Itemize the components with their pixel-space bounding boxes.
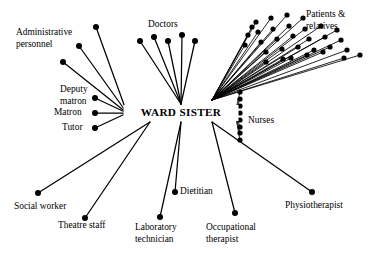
label-social-worker: Social worker [14,201,67,211]
label-nurses: Nurses [248,115,274,125]
node-dot-nurses-2 [237,96,242,101]
node-dot-patients-and-relatives-31 [249,24,254,29]
spoke-doctors-2 [154,37,181,104]
node-dot-nurses-6 [237,124,242,129]
label-physiotherapist: Physiotherapist [285,200,343,210]
label-occupational-therapist: Occupationaltherapist [206,222,256,244]
node-dot-social-worker-1 [35,190,41,196]
label-dietitian: Dietitian [180,186,213,196]
spoke-laboratory-technician-1 [160,122,181,217]
label-line: Laboratory [135,222,177,232]
diagram-canvas: AdministrativepersonnelDoctorsPatients &… [0,0,384,254]
label-line: Administrative [16,27,72,37]
node-dot-patients-and-relatives-15 [322,34,327,39]
node-dot-doctors-5 [192,38,198,44]
spoke-patients-and-relatives-27 [212,55,360,100]
node-dot-patients-and-relatives-14 [306,36,311,41]
dot-group-doctors [137,32,198,44]
label-line: Matron [54,107,82,117]
node-dot-matron-1 [92,110,98,116]
hub-label: WARD SISTER [141,106,222,118]
label-laboratory-technician: Laboratorytechnician [135,222,177,244]
dot-group-laboratory-technician [157,214,163,220]
label-line: Doctors [148,19,178,29]
spoke-group-doctors [140,35,195,104]
label-line: Nurses [248,115,274,125]
dot-group-dietitian [172,189,178,195]
spoke-group-dietitian [175,122,181,192]
dot-group-tutor [92,125,98,131]
spoke-patients-and-relatives-19 [212,47,298,100]
node-dot-patients-and-relatives-19 [295,44,300,49]
spoke-dietitian-1 [175,122,181,192]
node-dot-patients-and-relatives-22 [344,47,349,52]
node-dot-patients-and-relatives-6 [270,26,275,31]
label-administrative-personnel: Administrativepersonnel [16,27,72,49]
node-dot-doctors-3 [165,38,171,44]
node-dot-patients-and-relatives-11 [258,39,263,44]
node-dot-doctors-2 [151,34,157,40]
label-line: Theatre staff [58,220,106,230]
spoke-patients-and-relatives-24 [212,55,307,100]
node-dot-patients-and-relatives-32 [242,42,247,47]
node-dot-deputy-matron-1 [92,95,98,101]
node-dot-physiotherapist-1 [309,189,315,195]
label-tutor: Tutor [62,122,83,132]
node-dot-patients-and-relatives-16 [338,37,343,42]
dot-group-occupational-therapist [232,210,238,216]
label-line: matron [60,96,87,106]
label-line: Tutor [62,122,83,132]
node-dot-nurses-8 [237,137,242,142]
dot-group-physiotherapist [309,189,315,195]
node-dot-administrative-personnel-3 [60,59,66,65]
label-doctors: Doctors [148,19,178,29]
dot-group-social-worker [35,190,41,196]
node-dot-tutor-1 [92,125,98,131]
spoke-group-theatre-staff [85,122,150,218]
node-dot-patients-and-relatives-7 [286,23,291,28]
node-dot-patients-and-relatives-26 [341,55,346,60]
dot-group-matron [92,110,98,116]
role-set-diagram: AdministrativepersonnelDoctorsPatients &… [0,0,384,254]
spoke-theatre-staff-1 [85,122,150,218]
node-dot-laboratory-technician-1 [157,214,163,220]
node-dot-patients-and-relatives-12 [274,36,279,41]
node-dot-patients-and-relatives-17 [263,49,268,54]
label-line: relatives [306,21,338,31]
node-dot-patients-and-relatives-4 [300,15,305,20]
node-dot-patients-and-relatives-1 [253,19,258,24]
label-line: therapist [206,234,239,244]
node-dot-dietitian-1 [172,189,178,195]
node-dot-patients-and-relatives-2 [268,15,273,20]
spoke-social-worker-1 [38,122,150,193]
node-dot-patients-and-relatives-18 [279,46,284,51]
node-dot-nurses-1 [237,89,242,94]
spoke-group-social-worker [38,122,150,193]
spoke-doctors-5 [181,41,195,104]
node-dot-patients-and-relatives-28 [263,59,268,64]
node-dot-doctors-1 [137,38,143,44]
node-dot-administrative-personnel-1 [93,24,99,30]
label-line: Occupational [206,222,256,232]
node-dot-patients-and-relatives-3 [284,12,289,17]
label-line: Social worker [14,201,67,211]
node-dot-doctors-4 [179,32,185,38]
label-line: personnel [16,39,53,49]
node-dot-patients-and-relatives-5 [255,29,260,34]
node-dot-patients-and-relatives-29 [280,56,285,61]
spoke-group-laboratory-technician [160,122,181,217]
dot-group-deputy-matron [92,95,98,101]
node-dot-occupational-therapist-1 [232,210,238,216]
label-patients-and-relatives: Patients &relatives [306,9,346,31]
label-theatre-staff: Theatre staff [58,220,106,230]
node-dot-patients-and-relatives-25 [320,49,325,54]
spoke-group-tutor [95,113,127,128]
spoke-patients-and-relatives-29 [212,59,283,100]
label-matron: Matron [54,107,82,117]
spoke-tutor-1 [95,113,127,128]
spoke-doctors-4 [181,35,182,104]
node-dot-patients-and-relatives-20 [311,47,316,52]
node-dot-patients-and-relatives-30 [245,32,250,37]
node-dot-nurses-7 [237,130,242,135]
label-line: Physiotherapist [285,200,343,210]
